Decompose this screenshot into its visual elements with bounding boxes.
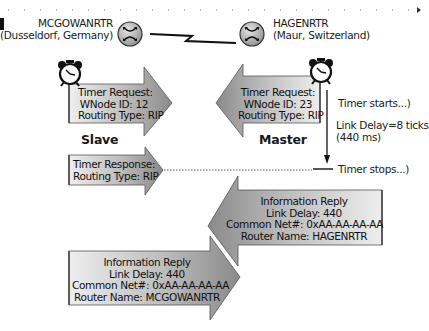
msg-line: Common Net#: 0xAA-AA-AA-AA <box>226 219 382 231</box>
master-timer-request-text: Timer Request: WNode ID: 23 Routing Type… <box>238 87 318 122</box>
msg-line: Information Reply <box>72 257 222 269</box>
link-delay-timeline <box>324 90 330 164</box>
msg-line: Information Reply <box>226 196 382 208</box>
msg-line: Common Net#: 0xAA-AA-AA-AA <box>72 280 222 292</box>
left-router-location: (Dusseldorf, Germany) <box>0 29 113 41</box>
msg-line: Router Name: HAGENRTR <box>226 231 382 243</box>
right-router-label: HAGENRTR (Maur, Switzerland) <box>273 17 370 41</box>
router-icon-right <box>240 22 264 46</box>
msg-line: Routing Type: RIP <box>238 110 318 122</box>
left-router-label: MCGOWANRTR (Dusseldorf, Germany) <box>0 17 113 41</box>
msg-line: Timer Request: <box>238 87 318 99</box>
msg-line: Routing Type: RIP <box>73 171 158 183</box>
right-router-location: (Maur, Switzerland) <box>273 29 370 41</box>
info-reply-mcgowan-text: Information Reply Link Delay: 440 Common… <box>72 257 222 303</box>
slave-timer-request-text: Timer Request: WNode ID: 12 Routing Type… <box>78 87 150 122</box>
slave-label: Slave <box>81 134 118 146</box>
right-router-name: HAGENRTR <box>273 17 370 29</box>
link-delay-ticks: Link Delay=8 ticks <box>336 119 429 131</box>
serial-link-lightning-icon <box>150 34 236 43</box>
timer-response-text: Timer Response: Routing Type: RIP <box>73 159 158 182</box>
msg-line: Timer Response: <box>73 159 158 171</box>
link-delay-ms: (440 ms) <box>336 131 429 143</box>
timer-stops-label: Timer stops...) <box>338 163 409 175</box>
msg-line: Routing Type: RIP <box>78 110 150 122</box>
top-dotted-divider <box>8 7 421 13</box>
msg-line: Router Name: MCGOWANRTR <box>72 292 222 304</box>
router-icon-left <box>118 22 142 46</box>
alarm-clock-icon-left <box>58 60 82 86</box>
info-reply-hagen-text: Information Reply Link Delay: 440 Common… <box>226 196 382 242</box>
left-router-name: MCGOWANRTR <box>0 17 113 29</box>
link-delay-label: Link Delay=8 ticks (440 ms) <box>336 119 429 143</box>
msg-line: Timer Request: <box>78 87 150 99</box>
master-label: Master <box>259 134 307 146</box>
timer-starts-label: Timer starts...) <box>338 97 411 109</box>
